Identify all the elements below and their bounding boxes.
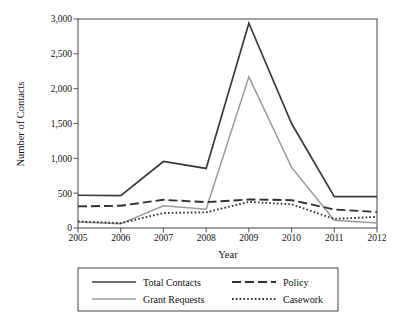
series-line-policy [78,199,377,212]
x-tick-label: 2011 [325,233,344,243]
y-tick-label: 1,500 [51,119,73,129]
x-axis-title: Year [218,249,238,260]
y-tick-label: 2,500 [51,49,73,59]
plot-frame [78,19,377,228]
x-tick-label: 2008 [197,233,216,243]
y-tick-label: 3,000 [51,14,73,24]
y-tick-label: 0 [67,223,72,233]
x-tick-label-group: 20052006200720082009201020112012 [69,233,387,243]
series-group [78,23,377,224]
x-tick-label: 2006 [111,233,130,243]
x-tick-label: 2005 [69,233,88,243]
legend-label-policy: Policy [283,277,309,288]
y-tick-label: 1,000 [51,154,73,164]
x-tick-label: 2007 [154,233,173,243]
legend-label-total-contacts: Total Contacts [143,277,201,288]
y-tick-label-group: 05001,0001,5002,0002,5003,000 [51,14,73,233]
y-tick-label: 2,000 [51,84,73,94]
x-tick-label: 2010 [282,233,301,243]
line-chart-svg: Number of Contacts 05001,0001,5002,0002,… [0,0,400,317]
y-tick-label: 500 [58,189,73,199]
y-axis-title: Number of Contacts [15,81,26,166]
x-tick-label: 2012 [368,233,387,243]
legend-item-group: Total ContactsPolicyGrant RequestsCasewo… [92,277,323,305]
legend: Total ContactsPolicyGrant RequestsCasewo… [78,268,338,311]
chart-figure: Number of Contacts 05001,0001,5002,0002,… [0,0,400,317]
legend-label-casework: Casework [283,294,323,305]
x-tick-label: 2009 [239,233,258,243]
legend-label-grant-requests: Grant Requests [143,294,204,305]
series-line-total-contacts [78,23,377,196]
